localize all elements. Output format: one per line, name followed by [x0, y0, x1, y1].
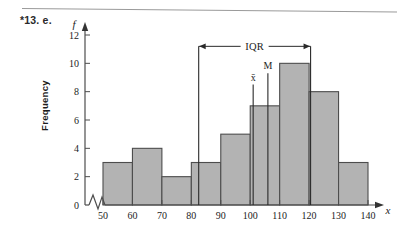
histogram-bar: [162, 177, 191, 205]
median-marker-label: M: [263, 60, 272, 71]
x-tick-label: 80: [186, 210, 196, 221]
iqr-arrowhead-right-icon: [304, 44, 311, 50]
x-tick-label: 70: [157, 210, 167, 221]
mean-marker-label: x̄: [251, 72, 256, 83]
x-tick-label: 100: [243, 210, 258, 221]
x-tick-label: 120: [302, 210, 317, 221]
y-axis-ticks: 024681012: [69, 30, 90, 211]
y-axis-arrow-icon: [82, 22, 88, 31]
y-tick-label: 0: [74, 200, 79, 211]
histogram-bar: [191, 163, 220, 206]
x-tick-label: 60: [127, 210, 137, 221]
iqr-label: IQR: [245, 41, 264, 52]
y-tick-label: 6: [74, 115, 79, 126]
y-tick-label: 12: [69, 30, 79, 41]
y-tick-label: 4: [74, 143, 79, 154]
histogram-bar: [280, 63, 309, 205]
x-tick-label: 50: [98, 210, 108, 221]
x-tick-label: 140: [361, 210, 376, 221]
histogram-bar: [250, 106, 279, 205]
histogram-bar: [221, 134, 250, 205]
x-tick-label: 90: [216, 210, 226, 221]
histogram-bar: [103, 163, 132, 206]
iqr-arrowhead-left-icon: [199, 44, 206, 50]
x-tick-label: 130: [331, 210, 346, 221]
y-tick-label: 8: [74, 86, 79, 97]
y-axis-symbol: f: [72, 18, 77, 30]
y-tick-label: 2: [74, 171, 79, 182]
x-tick-label: 110: [272, 210, 287, 221]
bars-group: [103, 63, 368, 205]
histogram-bar: [339, 163, 368, 206]
x-axis-arrow-icon: [375, 202, 384, 208]
histogram-bar: [309, 92, 338, 205]
x-axis-symbol: x: [385, 204, 391, 216]
histogram-bar: [132, 148, 161, 205]
y-tick-label: 10: [69, 58, 79, 69]
histogram-plot: fx 5060708090100110120130140 024681012 I…: [0, 0, 397, 236]
figure-container: *13. e. Frequency fx 5060708090100110120…: [0, 0, 397, 236]
